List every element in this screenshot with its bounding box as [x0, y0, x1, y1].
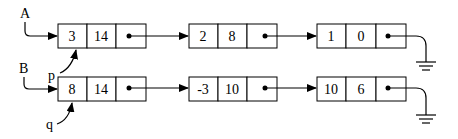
- node-value: 14: [94, 29, 108, 44]
- node-b2: -3 10: [189, 77, 277, 101]
- node-data: 1: [328, 29, 335, 44]
- node-data: 8: [69, 82, 76, 97]
- pointer-label-q: q: [46, 117, 53, 132]
- ground-null-icon: [416, 62, 436, 70]
- pointer-label-p: p: [48, 68, 55, 83]
- node-value: 14: [94, 82, 108, 97]
- node-data: 10: [324, 82, 338, 97]
- node-data: -3: [197, 82, 209, 97]
- node-b1: 8 14: [58, 77, 146, 101]
- pointer-arrow-p: [60, 50, 76, 73]
- head-label-a: A: [20, 6, 31, 21]
- linked-list-diagram: A 3 14 2 8 1 0: [0, 0, 458, 139]
- node-data: 3: [69, 29, 76, 44]
- head-arrow-a: [25, 22, 57, 36]
- pointer-q: q: [46, 103, 72, 132]
- node-value: 6: [358, 82, 365, 97]
- pointer-arrow-q: [57, 103, 72, 124]
- node-b3: 10 6: [317, 77, 406, 101]
- node-data: 2: [200, 29, 207, 44]
- head-label-b: B: [19, 61, 28, 76]
- node-value: 10: [225, 82, 239, 97]
- ground-null-icon: [416, 115, 436, 123]
- list-a: A 3 14 2 8 1 0: [20, 6, 436, 70]
- list-b: B 8 14 -3 10 10 6: [19, 61, 436, 123]
- node-value: 8: [229, 29, 236, 44]
- node-value: 0: [358, 29, 365, 44]
- node-a2: 2 8: [189, 24, 277, 48]
